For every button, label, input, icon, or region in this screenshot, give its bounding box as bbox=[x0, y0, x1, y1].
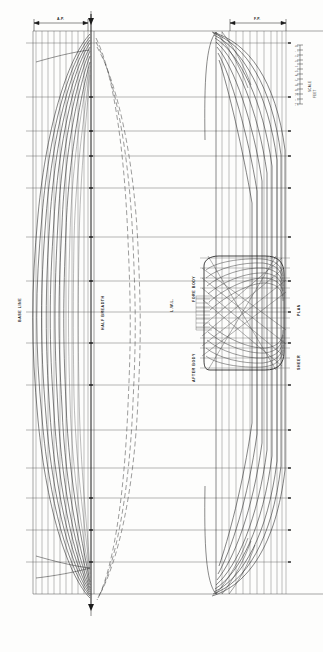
dimension-label-left: A.P. bbox=[57, 17, 64, 21]
label-lwl: L.W.L. bbox=[170, 298, 174, 312]
scale-legend-unit: FEET bbox=[313, 89, 317, 98]
scale-tick-label: 3 bbox=[296, 60, 299, 61]
scale-tick-label: 4 bbox=[296, 65, 299, 66]
label-sheer: SHEER bbox=[297, 355, 301, 370]
scale-tick-label: 9 bbox=[296, 90, 299, 91]
label-fore-body: FORE BODY bbox=[192, 276, 196, 302]
label-base-line: BASE LINE bbox=[18, 298, 22, 322]
label-half-breadth: HALF BREADTH bbox=[101, 295, 105, 330]
scale-legend-title: SCALE bbox=[308, 81, 312, 92]
scale-tick-label: 1 bbox=[296, 50, 299, 51]
lines-plan-drawing bbox=[0, 0, 323, 652]
label-after-body: AFTER BODY bbox=[192, 353, 196, 382]
label-plan: PLAN bbox=[297, 304, 301, 316]
scale-tick-label: 11 bbox=[296, 98, 299, 101]
scale-tick-label: 8 bbox=[296, 85, 299, 86]
scale-tick-label: 0 bbox=[296, 46, 299, 47]
scale-tick-label: 5 bbox=[296, 70, 299, 71]
scale-tick-label: 12 bbox=[296, 103, 299, 106]
drawing-paper bbox=[0, 0, 323, 652]
dimension-label-right: F.P. bbox=[254, 17, 261, 21]
scale-tick-label: 10 bbox=[296, 93, 299, 96]
scale-tick-label: 2 bbox=[296, 55, 299, 56]
